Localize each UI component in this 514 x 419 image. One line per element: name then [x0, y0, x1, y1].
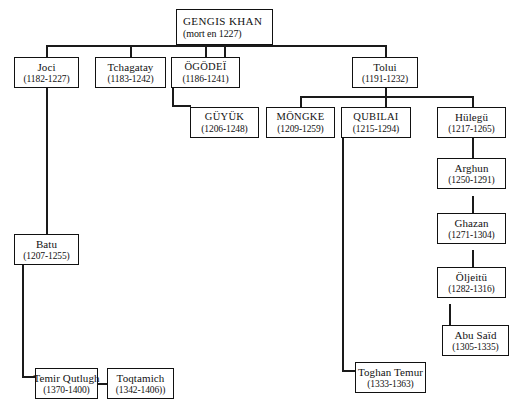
node-years: (1217-1265): [448, 124, 494, 135]
node-years: (1333-1363): [367, 379, 413, 390]
edge-drop-hulegu: [472, 96, 474, 107]
node-years: (1182-1227): [23, 74, 69, 85]
node-years: (1209-1259): [277, 124, 323, 135]
node-ogodei[interactable]: ÖGÖDEÏ (1186-1241): [171, 57, 240, 88]
node-name: Abu Saïd: [454, 329, 496, 341]
genealogy-diagram: GENGIS KHAN (mort en 1227) Joci (1182-12…: [0, 0, 514, 419]
node-years: (1305-1335): [452, 342, 498, 353]
node-tchagatay[interactable]: Tchagatay (1183-1242): [95, 57, 166, 88]
edge-hulegu-arghun: [472, 138, 474, 158]
node-years: (1342-1406)): [116, 385, 165, 396]
node-temir-qutlugh[interactable]: Temir Qutlugh (1370-1400): [35, 368, 98, 399]
node-toghan-temur[interactable]: Toghan Temur (1333-1363): [355, 362, 426, 393]
edge-drop-tchagatay: [130, 45, 132, 57]
edge-ogodei-guyuk-h: [172, 105, 191, 107]
edge-gengis-bus: [46, 45, 386, 47]
node-name: Ghazan: [454, 217, 488, 229]
edge-drop-ogodei: [205, 45, 207, 57]
node-name: Joci: [37, 61, 55, 73]
edge-ghazan-oljeitu: [472, 250, 474, 267]
edge-arghun-ghazan: [472, 196, 474, 213]
node-name: Tolui: [373, 61, 397, 73]
edge-ogodei-guyuk-v: [172, 88, 174, 107]
node-years: (1183-1242): [107, 74, 153, 85]
edge-qubilai-toghan-h: [342, 370, 356, 372]
node-hulegu[interactable]: Hülegü (1217-1265): [437, 107, 506, 138]
node-gengis-khan[interactable]: GENGIS KHAN (mort en 1227): [176, 9, 273, 45]
node-years: (1250-1291): [448, 175, 494, 186]
node-years: (1207-1255): [23, 251, 69, 262]
node-toqtamich[interactable]: Toqtamich (1342-1406)): [107, 368, 174, 399]
node-name: GÜYÜK: [205, 111, 244, 123]
node-joci[interactable]: Joci (1182-1227): [14, 57, 79, 88]
node-name: Arghun: [454, 162, 488, 174]
node-abu-said[interactable]: Abu Saïd (1305-1335): [442, 325, 509, 356]
node-name: GENGIS KHAN: [183, 15, 262, 27]
node-years: (1186-1241): [182, 74, 228, 85]
node-guyuk[interactable]: GÜYÜK (1206-1248): [190, 107, 259, 138]
node-years: (1215-1294): [353, 124, 399, 135]
node-name: Tchagatay: [108, 61, 154, 73]
node-mongke[interactable]: MÖNGKE (1209-1259): [266, 107, 335, 138]
node-years: (1282-1316): [448, 284, 494, 295]
edge-drop-joci: [46, 45, 48, 57]
node-batu[interactable]: Batu (1207-1255): [14, 234, 79, 265]
node-name: ÖGÖDEÏ: [184, 61, 226, 73]
node-name: QUBILAI: [353, 111, 398, 123]
edge-drop-mongke: [300, 96, 302, 107]
node-name: Hülegü: [455, 111, 488, 123]
edge-joci-batu: [46, 88, 48, 234]
node-years: (1271-1304): [448, 230, 494, 241]
node-name: Toqtamich: [117, 372, 165, 384]
node-name: Öljeitü: [456, 271, 487, 283]
node-name: Batu: [36, 238, 57, 250]
node-years: (1191-1232): [362, 74, 408, 85]
node-tolui[interactable]: Tolui (1191-1232): [352, 57, 418, 88]
node-years: (1370-1400): [43, 385, 89, 396]
node-years: (1206-1248): [201, 124, 247, 135]
edge-qubilai-toghan-v: [342, 138, 344, 372]
node-name: MÖNGKE: [277, 111, 325, 123]
edge-batu-temir-v: [22, 265, 24, 378]
node-qubilai[interactable]: QUBILAI (1215-1294): [341, 107, 411, 138]
node-name: Temir Qutlugh: [33, 372, 99, 384]
edge-drop-tolui: [385, 45, 387, 57]
node-arghun[interactable]: Arghun (1250-1291): [437, 158, 506, 189]
node-years: (mort en 1227): [183, 28, 242, 39]
edge-drop-qubilai: [385, 96, 387, 107]
edge-gengis-stem: [224, 45, 226, 57]
node-ghazan[interactable]: Ghazan (1271-1304): [437, 213, 506, 244]
node-name: Toghan Temur: [358, 366, 423, 378]
node-oljeitu[interactable]: Öljeitü (1282-1316): [437, 267, 506, 298]
